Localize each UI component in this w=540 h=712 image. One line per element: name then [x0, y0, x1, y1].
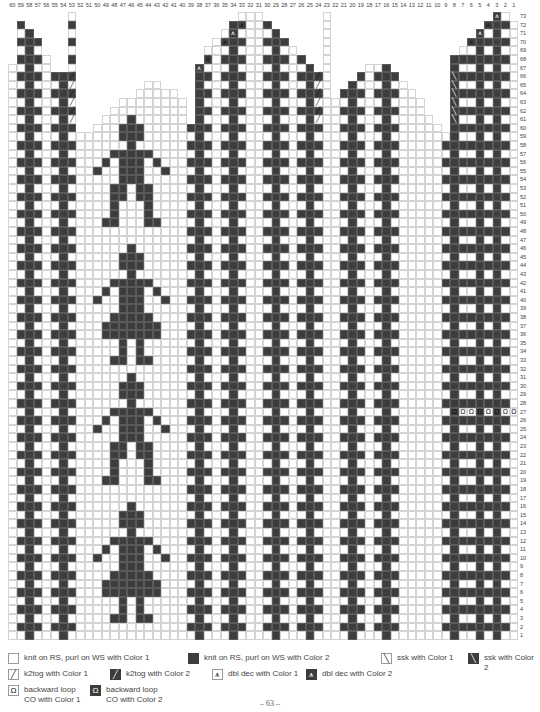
stitch-color1	[119, 485, 128, 494]
stitch-color1	[221, 425, 230, 434]
stitch-color1	[212, 605, 221, 614]
stitch-color2	[450, 468, 459, 477]
stitch-color2	[501, 485, 510, 494]
stitch-color2	[476, 38, 485, 47]
stitch-color2	[144, 476, 153, 485]
stitch-color2	[127, 537, 136, 546]
stitch-color1	[331, 339, 340, 348]
stitch-color2	[340, 158, 349, 167]
stitch-color1	[442, 322, 451, 331]
stitch-color1	[178, 528, 187, 537]
row-number: 62	[520, 108, 526, 114]
stitch-color2	[153, 545, 162, 554]
stitch-color1	[144, 399, 153, 408]
stitch-color2	[229, 339, 238, 348]
stitch-color1	[153, 425, 162, 434]
stitch-color2	[25, 339, 34, 348]
stitch-color2	[161, 425, 170, 434]
stitch-color2	[476, 485, 485, 494]
stitch-color2	[476, 373, 485, 382]
stitch-color1	[280, 253, 289, 262]
stitch-color1	[425, 313, 434, 322]
stitch-color1	[85, 562, 94, 571]
stitch-color1	[255, 390, 264, 399]
stitch-color1	[76, 580, 85, 589]
stitch-color1	[178, 279, 187, 288]
stitch-color1	[136, 494, 145, 503]
stitch-color2	[263, 623, 272, 632]
stitch-color1	[68, 511, 77, 520]
stitch-color1	[365, 236, 374, 245]
stitch-color1	[85, 373, 94, 382]
stitch-color2	[119, 253, 128, 262]
stitch-color2	[501, 416, 510, 425]
stitch-color2	[110, 588, 119, 597]
stitch-color1	[8, 605, 17, 614]
stitch-color2	[476, 588, 485, 597]
stitch-color2	[127, 390, 136, 399]
stitch-color1	[357, 339, 366, 348]
stitch-color1	[416, 468, 425, 477]
stitch-color1	[467, 287, 476, 296]
stitch-color1	[42, 511, 51, 520]
stitch-color1	[246, 287, 255, 296]
stitch-color1	[68, 287, 77, 296]
stitch-color1	[51, 236, 60, 245]
stitch-color1	[161, 244, 170, 253]
stitch-color1	[263, 304, 272, 313]
stitch-color2	[68, 433, 77, 442]
stitch-color2	[272, 72, 281, 81]
stitch-color2	[314, 623, 323, 632]
stitch-color2	[348, 339, 357, 348]
stitch-color1	[289, 468, 298, 477]
stitch-color1	[340, 98, 349, 107]
stitch-color1	[221, 476, 230, 485]
stitch-color2	[119, 605, 128, 614]
stitch-color2	[68, 468, 77, 477]
stitch-color2	[238, 330, 247, 339]
stitch-color2	[25, 244, 34, 253]
stitch-color1	[425, 184, 434, 193]
stitch-color1	[510, 330, 519, 339]
stitch-color2	[153, 322, 162, 331]
stitch-color1	[144, 81, 153, 90]
stitch-color2	[450, 554, 459, 563]
stitch-color1	[289, 554, 298, 563]
stitch-color2	[391, 261, 400, 270]
stitch-color1	[93, 468, 102, 477]
stitch-color1	[221, 29, 230, 38]
stitch-color2	[450, 399, 459, 408]
stitch-color1	[153, 356, 162, 365]
stitch-color1	[510, 184, 519, 193]
stitch-color2	[280, 210, 289, 219]
stitch-color2	[280, 347, 289, 356]
stitch-color2	[17, 72, 26, 81]
stitch-color1	[85, 519, 94, 528]
stitch-color1	[399, 580, 408, 589]
stitch-color1	[255, 631, 264, 640]
stitch-color2	[17, 451, 26, 460]
stitch-color1	[331, 442, 340, 451]
column-number: 42	[161, 2, 170, 8]
stitch-color1	[289, 485, 298, 494]
stitch-color2	[484, 107, 493, 116]
stitch-color1	[408, 227, 417, 236]
stitch-color1	[399, 184, 408, 193]
stitch-color2	[221, 175, 230, 184]
stitch-color1	[314, 476, 323, 485]
stitch-color1	[374, 218, 383, 227]
stitch-color1	[110, 562, 119, 571]
stitch-color1	[17, 425, 26, 434]
stitch-color1	[85, 537, 94, 546]
stitch-color1	[280, 597, 289, 606]
stitch-color2	[493, 502, 502, 511]
stitch-color2	[263, 279, 272, 288]
stitch-color1	[153, 124, 162, 133]
stitch-color1	[8, 115, 17, 124]
stitch-color2	[25, 459, 34, 468]
stitch-color1	[433, 330, 442, 339]
stitch-color1	[127, 442, 136, 451]
stitch-color1	[144, 124, 153, 133]
stitch-color2	[476, 287, 485, 296]
stitch-color1	[246, 46, 255, 55]
